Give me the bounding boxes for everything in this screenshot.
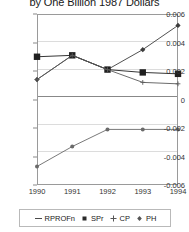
square-marker-icon <box>80 214 89 223</box>
dash-marker-icon <box>34 214 43 223</box>
legend-item-ph[interactable]: PH <box>135 214 156 223</box>
y-tick-mark <box>33 14 37 15</box>
data-point <box>70 145 74 149</box>
series-line-ph <box>37 129 178 166</box>
data-point <box>141 127 145 131</box>
y-tick-label: 0 <box>181 95 185 104</box>
data-point <box>175 23 180 28</box>
x-tick-label: 1990 <box>29 187 46 196</box>
y-tick-mark <box>33 185 37 186</box>
legend-item-rprofn[interactable]: RPROFn <box>34 214 75 223</box>
y-tick-mark <box>33 128 37 129</box>
y-tick-mark <box>33 156 37 157</box>
x-tick-label: 1991 <box>64 187 81 196</box>
x-tick-label: 1994 <box>170 187 187 196</box>
legend-item-cp[interactable]: CP <box>109 214 130 223</box>
legend-label: SPr <box>91 214 104 223</box>
data-point <box>35 164 39 168</box>
x-tick-label: 1993 <box>134 187 151 196</box>
data-point <box>34 54 40 60</box>
y-tick-label: 0.002 <box>166 67 185 76</box>
small-diamond-marker-icon <box>135 214 144 223</box>
y-tick-mark <box>33 42 37 43</box>
legend-label: RPROFn <box>45 214 75 223</box>
data-point <box>140 47 145 52</box>
y-tick-mark <box>33 99 37 100</box>
y-tick-label: 0.004 <box>166 38 185 47</box>
data-point <box>176 81 181 86</box>
plus-marker-icon <box>109 214 118 223</box>
y-tick-label: -0.004 <box>164 152 185 161</box>
y-axis <box>0 0 37 200</box>
legend-item-spr[interactable]: SPr <box>80 214 104 223</box>
y-tick-label: 0.006 <box>166 10 185 19</box>
data-point <box>140 69 146 75</box>
y-tick-label: -0.002 <box>164 124 185 133</box>
series-lines <box>37 14 178 185</box>
x-tick-label: 1992 <box>99 187 116 196</box>
legend-label: CP <box>120 214 130 223</box>
chart-legend: RPROFn SPr CP PH <box>19 209 171 227</box>
data-point <box>106 127 110 131</box>
chart-screenshot: by One Billion 1987 Dollars 0.0060.0040.… <box>0 0 189 232</box>
legend-label: PH <box>146 214 156 223</box>
y-tick-mark <box>33 71 37 72</box>
data-point <box>140 80 145 85</box>
